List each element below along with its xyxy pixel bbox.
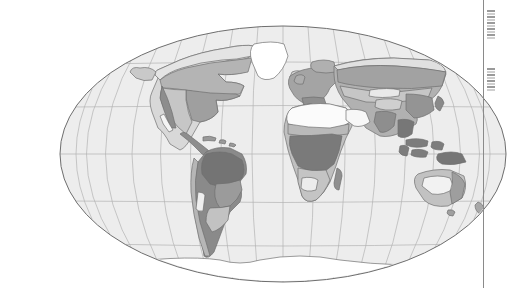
- zone-boreal-siberia: [337, 66, 446, 89]
- world-map-svg: [40, 16, 511, 288]
- land-british-isles: [294, 75, 305, 84]
- zone-desert-kalahari: [301, 177, 318, 191]
- land-new-guinea: [437, 152, 466, 165]
- zone-boreal-scandinavia: [311, 60, 336, 73]
- zone-desert-atacama: [196, 192, 205, 211]
- land-tasmania: [447, 210, 455, 216]
- column-rule: [483, 0, 484, 288]
- zone-plateau-tibet: [375, 99, 402, 110]
- adjacent-column-fragment: [487, 0, 495, 288]
- zone-desert-gobi: [369, 89, 400, 98]
- world-biome-map-figure: [40, 16, 511, 288]
